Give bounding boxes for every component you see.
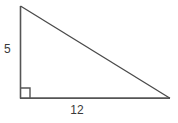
label-vertical-leg: 5 — [4, 43, 11, 56]
side-hypotenuse — [21, 6, 171, 98]
right-angle-marker-icon — [21, 88, 31, 98]
label-horizontal-leg: 12 — [64, 104, 90, 117]
geometry-figure: 5 12 — [0, 0, 178, 123]
